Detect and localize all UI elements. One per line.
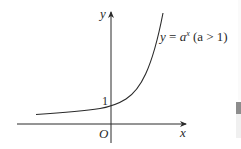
graph-canvas bbox=[0, 0, 241, 149]
function-label: y = ax (a > 1) bbox=[160, 30, 228, 43]
y-axis-label: y bbox=[100, 7, 106, 20]
x-axis-label: x bbox=[180, 126, 186, 139]
function-condition: (a > 1) bbox=[190, 29, 228, 44]
exponential-graph: y x O 1 y = ax (a > 1) bbox=[0, 0, 241, 149]
edge-strip bbox=[238, 0, 241, 100]
function-eq: = bbox=[166, 29, 180, 44]
origin-label: O bbox=[99, 127, 108, 140]
exponential-curve bbox=[36, 13, 163, 115]
edge-block bbox=[236, 102, 241, 114]
y-intercept-label: 1 bbox=[102, 95, 108, 107]
edge-block-light bbox=[236, 114, 241, 138]
